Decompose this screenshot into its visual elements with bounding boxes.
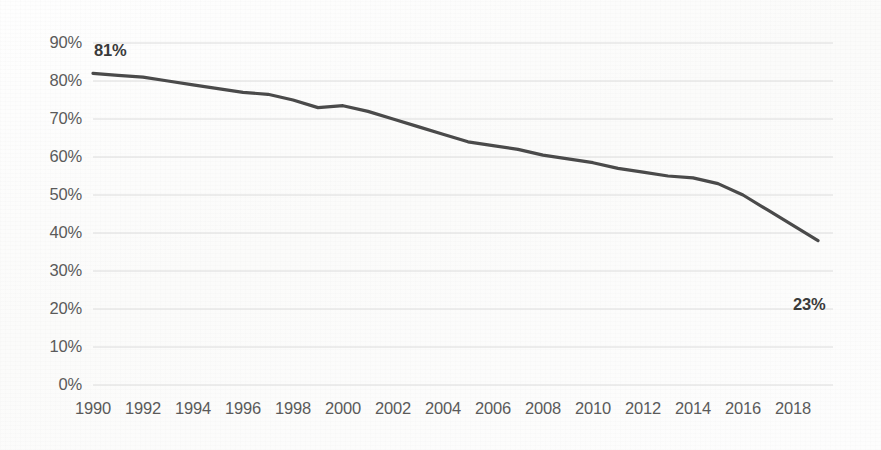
y-axis-tick-label: 80% bbox=[20, 71, 82, 90]
y-axis-tick-label: 50% bbox=[20, 185, 82, 204]
y-axis-tick-label: 70% bbox=[20, 109, 82, 128]
y-axis-tick-label: 30% bbox=[20, 261, 82, 280]
end-value-label: 23% bbox=[793, 295, 825, 314]
start-value-label: 81% bbox=[94, 41, 126, 60]
y-axis-tick-label: 90% bbox=[20, 33, 82, 52]
line-chart-plot bbox=[0, 0, 881, 450]
y-axis-tick-label: 20% bbox=[20, 299, 82, 318]
y-axis-tick-label: 40% bbox=[20, 223, 82, 242]
gridlines-group bbox=[93, 43, 833, 385]
y-axis-tick-label: 60% bbox=[20, 147, 82, 166]
x-axis-tick-label: 2018 bbox=[763, 399, 823, 418]
y-axis-tick-label: 10% bbox=[20, 337, 82, 356]
y-axis-tick-label: 0% bbox=[20, 375, 82, 394]
chart-page: 90%80%70%60%50%40%30%20%10%0% 1990199219… bbox=[0, 0, 881, 450]
